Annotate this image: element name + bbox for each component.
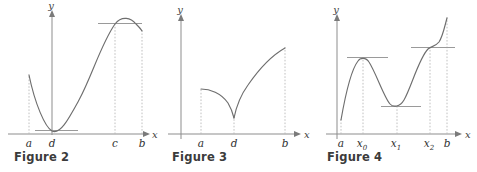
figure-2-y-axis-label: y [47,0,54,11]
figure-4-block: y x a x0 x1 x2 b Figure 4 [318,0,477,172]
figures-row: y x a d c b Figure 2 y [0,0,477,172]
figure-2-tick-label-a: a [26,137,32,149]
figure-4-curve [341,18,447,120]
figure-3-y-axis-label: y [176,4,183,15]
figure-4-y-axis-label: y [332,4,339,15]
figure-3-plot: y x a d b [158,0,318,150]
figure-2-tick-label-c: c [112,137,118,149]
figure-2-caption: Figure 2 [14,150,69,164]
figure-2-y-axis-arrow [49,10,55,17]
figure-4-x-axis-label: x [465,129,471,140]
figure-3-caption: Figure 3 [172,150,227,164]
figure-3-tick-label-b: b [282,137,289,149]
figure-3-x-axis-label: x [304,129,310,140]
figure-4-y-axis-arrow [334,14,340,21]
figure-4-plot: y x a x0 x1 x2 b [318,0,477,150]
figure-4-tick-label-x2-sub: 2 [429,144,435,151]
figure-4-tick-label-a: a [338,137,344,149]
figure-3-y-axis-arrow [178,14,184,21]
figure-4-tick-label-x0: x0 [357,137,368,150]
figure-4-tick-label-x1-sub: 1 [397,144,401,151]
figure-4-tick-label-x1: x1 [391,137,401,150]
figure-4-tick-label-b: b [444,137,451,149]
figure-2-block: y x a d c b Figure 2 [0,0,158,172]
figure-2-tick-label-d: d [49,137,56,149]
figure-3-curve-right-branch [234,48,285,118]
figure-3-tick-label-d: d [231,137,238,149]
figure-2-tick-label-b: b [139,137,146,149]
figure-3-x-axis-arrow [294,131,301,137]
figure-3-tick-label-a: a [198,137,204,149]
figure-3-block: y x a d b Figure 3 [158,0,318,172]
figure-4-x-axis-arrow [455,131,462,137]
figure-4-caption: Figure 4 [327,150,382,164]
figure-2-curve [29,18,142,131]
figure-4-tick-label-x2: x2 [424,137,435,150]
figure-3-curve-left-branch [201,89,234,118]
figure-2-plot: y x a d c b [0,0,158,150]
